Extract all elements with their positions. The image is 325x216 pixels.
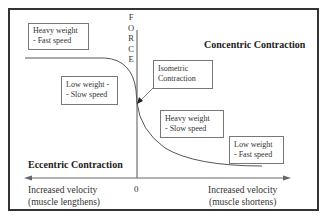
force-letter: F [127, 12, 135, 23]
origin-label: 0 [134, 184, 139, 194]
box-line: Isometric [158, 64, 208, 74]
concentric-contraction-label: Concentric Contraction [204, 39, 305, 50]
box-line: - Slow speed [165, 124, 219, 134]
box-line: Heavy weight [165, 114, 219, 124]
heavy-weight-fast-speed-box: Heavy weight - Fast speed [28, 23, 89, 50]
eccentric-contraction-label: Eccentric Contraction [28, 159, 123, 170]
force-letter: O [127, 23, 135, 34]
heavy-weight-slow-speed-box: Heavy weight - Slow speed [160, 110, 224, 138]
arrow-right-icon [283, 176, 291, 181]
isometric-arrowhead-icon [137, 97, 143, 104]
axis-label-line: Increased velocity [208, 184, 277, 196]
velocity-lengthens-label: Increased velocity (muscle lengthens) [28, 184, 100, 208]
velocity-shortens-label: Increased velocity (muscle shortens) [208, 184, 277, 208]
box-line: - Fast speed [234, 150, 279, 160]
box-line: - Slow speed [66, 90, 113, 100]
box-line: Low weight - [66, 80, 113, 90]
box-line: Contraction [158, 74, 208, 84]
axis-label-line: Increased velocity [28, 184, 100, 196]
low-weight-slow-speed-box: Low weight - - Slow speed [61, 76, 118, 105]
force-letter: E [127, 54, 135, 65]
box-line: Low weight [234, 140, 279, 150]
axis-label-line: (muscle lengthens) [28, 196, 100, 208]
force-letter: C [127, 44, 135, 55]
axis-label-line: (muscle shortens) [208, 196, 277, 208]
force-letter: R [127, 33, 135, 44]
box-line: Heavy weight [33, 26, 84, 36]
isometric-contraction-box: Isometric Contraction [153, 60, 213, 89]
low-weight-fast-speed-box: Low weight - Fast speed [229, 136, 284, 164]
arrow-left-icon [24, 176, 32, 181]
isometric-pointer-line [141, 88, 153, 100]
box-line: - Fast speed [33, 36, 84, 46]
force-axis-label: F O R C E [127, 12, 135, 65]
